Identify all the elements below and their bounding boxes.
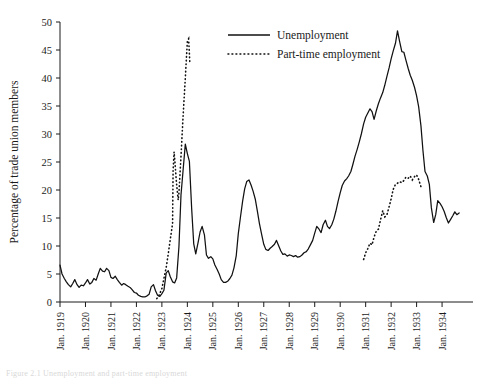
y-tick-label: 40 [42, 73, 53, 84]
x-tick-label: Jan. 1922 [131, 312, 142, 350]
data-series-group [60, 31, 459, 299]
y-axis: 05101520253035404550 [42, 17, 61, 308]
x-tick-label: Jan. 1930 [335, 312, 346, 350]
y-tick-label: 25 [42, 157, 53, 168]
y-tick-label: 15 [42, 213, 53, 224]
x-tick-label: Jan. 1931 [360, 312, 371, 350]
y-tick-label: 20 [42, 185, 53, 196]
y-tick-label: 45 [42, 45, 53, 56]
series-line-dotted [364, 175, 421, 260]
x-tick-label: Jan. 1920 [80, 312, 91, 350]
x-tick-label: Jan. 1924 [182, 312, 193, 350]
figure-caption: Figure 2.1 Unemployment and part-time em… [6, 369, 187, 378]
x-tick-label: Jan. 1932 [386, 312, 397, 350]
x-tick-label: Jan. 1928 [284, 312, 295, 350]
x-tick-label: Jan. 1927 [258, 312, 269, 350]
x-tick-label: Jan. 1933 [411, 312, 422, 350]
series-line-dotted [157, 39, 190, 299]
x-tick-label: Jan. 1921 [106, 312, 117, 350]
x-tick-label: Jan. 1925 [207, 312, 218, 350]
legend-label: Part-time employment [277, 48, 381, 61]
x-tick-label: Jan. 1926 [233, 312, 244, 350]
y-tick-label: 5 [47, 269, 52, 280]
y-axis-title: Percentage of trade union members [8, 80, 21, 243]
unemployment-chart: 05101520253035404550 Jan. 1919Jan. 1920J… [0, 0, 489, 379]
y-tick-label: 0 [47, 297, 52, 308]
chart-legend: UnemploymentPart-time employment [228, 29, 381, 61]
y-tick-label: 10 [42, 241, 53, 252]
series-line-solid [60, 31, 459, 297]
y-tick-label: 35 [42, 101, 53, 112]
figure-container: 05101520253035404550 Jan. 1919Jan. 1920J… [0, 0, 489, 379]
x-axis: Jan. 1919Jan. 1920Jan. 1921Jan. 1922Jan.… [55, 302, 473, 350]
y-tick-label: 30 [42, 129, 53, 140]
x-tick-label: Jan. 1929 [309, 312, 320, 350]
x-tick-label: Jan. 1919 [55, 312, 66, 350]
x-tick-label: Jan. 1934 [437, 312, 448, 350]
y-tick-label: 50 [42, 17, 53, 28]
legend-label: Unemployment [277, 29, 349, 42]
x-tick-label: Jan. 1923 [156, 312, 167, 350]
